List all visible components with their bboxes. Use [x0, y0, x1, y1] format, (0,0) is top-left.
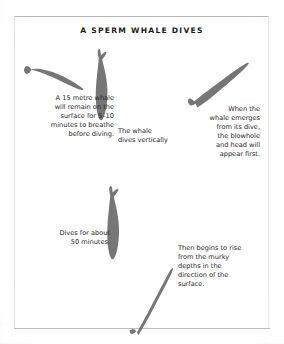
caption-emerging: When the whale emerges from its dive, th… [196, 105, 260, 160]
frame-rule-top [14, 16, 268, 17]
sperm-whale-dive-infographic: A SPERM WHALE DIVES A 15 metre whale wil… [0, 0, 284, 344]
paper-texture-right [258, 0, 284, 344]
whale-deep-dive-icon [100, 185, 126, 263]
whale-surface-icon [22, 56, 92, 92]
caption-rising: Then begins to rise from the murky depth… [178, 244, 260, 289]
frame-rule-right [268, 16, 269, 329]
paper-texture-left [0, 0, 30, 344]
whale-rising-icon [128, 258, 180, 336]
whale-emerging-icon [185, 47, 251, 105]
page-title: A SPERM WHALE DIVES [0, 26, 284, 35]
caption-dive-duration: Dives for about 50 minutes. [32, 229, 110, 247]
caption-dives-vertically: The whale dives vertically [118, 127, 188, 145]
frame-rule-left [14, 16, 15, 329]
caption-surface: A 15 metre whale will remain on the surf… [18, 94, 114, 139]
